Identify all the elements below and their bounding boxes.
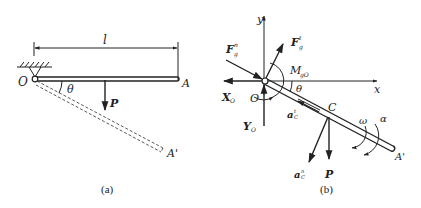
bar-horizontal [37, 77, 179, 81]
svg-text:O: O [251, 126, 256, 133]
y-axis-label: y [256, 13, 264, 26]
svg-text:a: a [287, 109, 293, 120]
center-label: C [328, 101, 337, 114]
angular-velocity-label: ω [359, 115, 367, 126]
x-axis-label: x [374, 83, 381, 96]
inertia-force-normal-arrow [226, 60, 262, 79]
inertia-moment-arc [270, 63, 284, 97]
inertia-force-tangent-arrow [266, 44, 283, 78]
caption-b: (b) [320, 183, 333, 196]
svg-text:a: a [294, 169, 300, 180]
svg-text:O: O [230, 97, 235, 104]
svg-text:g: g [299, 43, 303, 51]
angle-arc [59, 81, 62, 93]
bar-rotated-dashed [36, 81, 163, 152]
accel-tangent-arrow [298, 101, 319, 112]
svg-text:n: n [234, 41, 238, 48]
pivot-joint [262, 78, 268, 84]
svg-text:C: C [294, 114, 298, 120]
angle-label: θ [296, 83, 302, 94]
angular-acceleration-label: α [380, 113, 387, 124]
reaction-y-label: Y O [243, 120, 256, 133]
angle-arc [290, 81, 292, 92]
pivot-label: O [18, 75, 28, 89]
accel-normal-label: a n C [294, 168, 305, 180]
end-rotated-label: A' [394, 151, 405, 162]
svg-text:gO: gO [300, 71, 309, 79]
end-label: A [181, 77, 190, 90]
figure-a: l O A θ P A' (a) [17, 33, 190, 196]
inertia-force-normal-label: F n g [225, 41, 238, 58]
angle-label: θ [67, 83, 74, 96]
figure-b: y x F n g F t g M gO X O O θ Y O a t C [221, 13, 405, 196]
inertia-force-tangent-label: F t g [290, 34, 303, 51]
inertia-moment-label: M gO [289, 64, 309, 79]
reaction-x-label: X O [221, 91, 235, 104]
svg-text:C: C [301, 174, 305, 180]
accel-tangent-label: a t C [287, 108, 298, 120]
svg-text:g: g [234, 50, 238, 58]
caption-a: (a) [101, 183, 114, 196]
mechanics-diagram: l O A θ P A' (a) [0, 0, 421, 208]
accel-normal-arrow [309, 117, 328, 162]
pivot-label: O [250, 92, 259, 105]
end-rotated-label: A' [166, 147, 178, 160]
length-label: l [103, 33, 107, 47]
weight-label: P [324, 168, 334, 181]
length-dimension [34, 42, 178, 80]
svg-text:t: t [299, 34, 302, 41]
weight-label: P [109, 97, 119, 110]
